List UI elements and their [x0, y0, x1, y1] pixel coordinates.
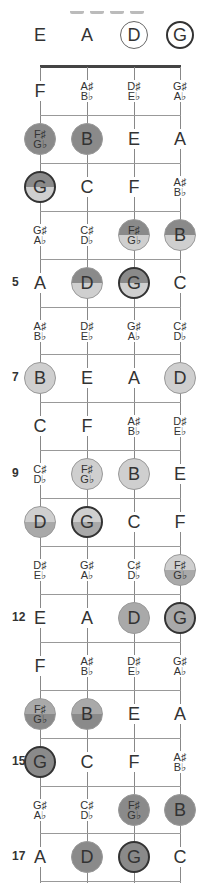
open-string-g: G: [166, 21, 194, 49]
note-label: G♯A♭: [33, 224, 47, 246]
note-fret8-string-g: D♯E♭: [162, 408, 198, 444]
note-label: C: [174, 273, 187, 293]
fret-line-6: [40, 354, 181, 355]
note-fret17-string-d: G: [116, 839, 152, 875]
fret-number-9: 9: [12, 466, 19, 480]
note-fret1-string-g: G♯A♭: [162, 73, 198, 109]
note-fret7-string-d: A: [116, 360, 152, 396]
note-fret7-string-e: B: [22, 360, 58, 396]
note-fret14-string-g: A: [162, 696, 198, 732]
note-fret10-string-a: G: [69, 504, 105, 540]
note-fret15-string-e: G: [22, 744, 58, 780]
fret-line-7: [40, 402, 181, 403]
note-fret13-string-a: A♯B♭: [69, 648, 105, 684]
note-fret13-string-g: G♯A♭: [162, 648, 198, 684]
note-label: B: [128, 464, 140, 484]
note-label: B: [81, 704, 93, 724]
note-fret11-string-d: C♯D♭: [116, 552, 152, 588]
note-fret13-string-e: F: [22, 648, 58, 684]
note-label: D♯E♭: [127, 80, 140, 102]
note-fret3-string-d: F: [116, 169, 152, 205]
note-label: G♯A♭: [33, 799, 47, 821]
note-label: A♯B♭: [34, 320, 47, 342]
note-label: F: [35, 81, 46, 101]
nut: [40, 65, 181, 68]
note-fret2-string-e: F♯G♭: [22, 121, 58, 157]
note-fret8-string-d: A♯B♭: [116, 408, 152, 444]
note-label: A♯B♭: [174, 751, 187, 773]
note-fret9-string-a: F♯G♭: [69, 456, 105, 492]
note-fret6-string-g: C♯D♭: [162, 313, 198, 349]
note-fret14-string-a: B: [69, 696, 105, 732]
note-label: G: [80, 512, 94, 532]
open-string-d: D: [120, 21, 148, 49]
note-label: A: [174, 704, 186, 724]
note-label: B: [174, 225, 186, 245]
note-fret3-string-a: C: [69, 169, 105, 205]
note-label: E: [174, 464, 186, 484]
note-fret4-string-e: G♯A♭: [22, 217, 58, 253]
note-label: C♯D♭: [173, 320, 186, 342]
note-fret7-string-g: D: [162, 360, 198, 396]
note-fret10-string-g: F: [162, 504, 198, 540]
note-fret12-string-a: A: [69, 600, 105, 636]
note-fret1-string-d: D♯E♭: [116, 73, 152, 109]
note-fret5-string-d: G: [116, 265, 152, 301]
open-string-a: A: [73, 21, 101, 49]
note-label: F: [129, 752, 140, 772]
note-label: G♯A♭: [80, 559, 94, 581]
note-fret9-string-d: B: [116, 456, 152, 492]
note-fret9-string-g: E: [162, 456, 198, 492]
note-label: A: [81, 608, 93, 628]
note-fret17-string-e: A: [22, 839, 58, 875]
fret-line-2: [40, 163, 181, 164]
note-label: E: [128, 129, 140, 149]
note-label: F: [82, 416, 93, 436]
note-label: E: [128, 704, 140, 724]
note-label: F♯G♭: [173, 559, 187, 581]
note-label: C: [128, 512, 141, 532]
fret-line-9: [40, 498, 181, 499]
fret-line-10: [40, 546, 181, 547]
note-label: A: [34, 847, 46, 867]
note-fret17-string-a: D: [69, 839, 105, 875]
fret-line-14: [40, 738, 181, 739]
note-label: D♯E♭: [33, 559, 46, 581]
note-label: C♯D♭: [33, 463, 46, 485]
note-label: A: [34, 273, 46, 293]
fret-number-7: 7: [12, 370, 19, 384]
note-label: D: [81, 847, 94, 867]
note-fret1-string-e: F: [22, 73, 58, 109]
note-label: C♯D♭: [80, 224, 93, 246]
note-fret16-string-e: G♯A♭: [22, 792, 58, 828]
note-label: B: [174, 800, 186, 820]
note-fret1-string-a: A♯B♭: [69, 73, 105, 109]
fret-line-1: [40, 115, 181, 116]
fret-line-8: [40, 450, 181, 451]
note-fret14-string-e: F♯G♭: [22, 696, 58, 732]
note-fret5-string-e: A: [22, 265, 58, 301]
note-fret5-string-g: C: [162, 265, 198, 301]
fret-line-4: [40, 259, 181, 260]
note-label: D♯E♭: [80, 320, 93, 342]
open-note-label: D: [128, 25, 141, 46]
fret-line-17: [40, 881, 181, 882]
note-fret16-string-g: B: [162, 792, 198, 828]
note-fret13-string-d: D♯E♭: [116, 648, 152, 684]
note-fret2-string-g: A: [162, 121, 198, 157]
note-fret12-string-e: E: [22, 600, 58, 636]
note-fret9-string-e: C♯D♭: [22, 456, 58, 492]
note-label: G: [127, 847, 141, 867]
note-fret8-string-a: F: [69, 408, 105, 444]
note-label: D: [174, 368, 187, 388]
open-note-label: A: [81, 25, 93, 46]
note-fret14-string-d: E: [116, 696, 152, 732]
fret-line-5: [40, 307, 181, 308]
note-label: G: [33, 177, 47, 197]
note-fret15-string-a: C: [69, 744, 105, 780]
note-label: F: [35, 656, 46, 676]
note-label: C: [81, 752, 94, 772]
note-label: G♯A♭: [173, 655, 187, 677]
note-label: B: [34, 368, 46, 388]
note-label: D♯E♭: [173, 415, 186, 437]
